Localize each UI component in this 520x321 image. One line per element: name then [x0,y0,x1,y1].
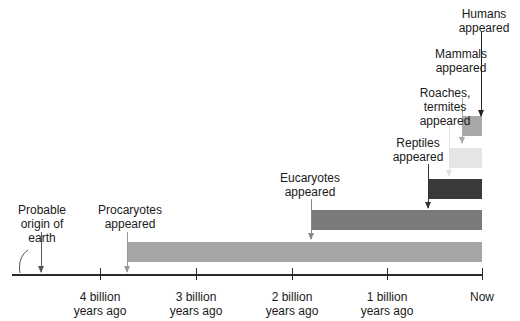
axis-tick-now [482,268,483,280]
roaches-termites-arrow-icon [449,124,450,176]
axis-tick-3b [196,268,197,280]
procaryotes-label: Procaryotes appeared [90,203,170,231]
reptiles-bar [428,179,482,199]
origin-earth-label: Probable origin of earth [12,203,72,245]
axis-tick-1b [387,268,388,280]
roaches-termites-label: Roaches, termites appeared [412,86,478,128]
axis-tick-2b [292,268,293,280]
procaryotes-arrow-icon [127,232,128,272]
reptiles-arrow-icon [428,164,429,208]
axis-tick-4b [100,268,101,280]
axis-label-now: Now [462,290,502,304]
mammals-label: Mammals appeared [428,47,494,75]
roaches-termites-bar [449,148,482,168]
axis-label-1b: 1 billion years ago [352,290,422,318]
axis-label-4b: 4 billion years ago [65,290,135,318]
eucaryotes-arrow-icon [311,199,312,239]
axis-label-3b: 3 billion years ago [161,290,231,318]
humans-label: Humans appeared [452,7,516,35]
reptiles-label: Reptiles appeared [390,136,446,164]
time-axis [12,274,483,276]
eucaryotes-bar [311,210,482,230]
procaryotes-bar [127,242,482,262]
eucaryotes-label: Eucaryotes appeared [272,171,348,199]
axis-label-2b: 2 billion years ago [257,290,327,318]
